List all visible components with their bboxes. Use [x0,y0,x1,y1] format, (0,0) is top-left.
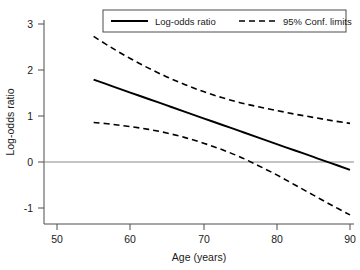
x-tick-label-70: 70 [198,233,210,245]
log-odds-ratio-chart: 3 2 1 0 -1 50 60 70 80 90 Age (years) Lo… [0,0,360,270]
y-tick-label-0: 0 [27,156,33,168]
series-line-log-odds-ratio [94,80,350,170]
legend-label-conf-limits: 95% Conf. limits [283,16,352,27]
x-tick-marks [57,224,350,230]
x-tick-label-80: 80 [271,233,283,245]
chart-legend: Log-odds ratio 95% Conf. limits [103,10,352,32]
y-axis-title: Log-odds ratio [4,88,16,155]
x-tick-label-50: 50 [51,233,63,245]
y-tick-label-1: 1 [27,110,33,122]
x-axis-title: Age (years) [172,251,226,263]
x-tick-label-60: 60 [124,233,136,245]
axes-group [44,20,354,224]
y-tick-label-3: 3 [27,18,33,30]
y-tick-label-2: 2 [27,64,33,76]
y-tick-marks [38,24,44,208]
series-line-lower-confidence-limit [94,122,350,214]
series-line-upper-confidence-limit [94,36,350,123]
series-group [94,36,350,214]
legend-label-log-odds-ratio: Log-odds ratio [155,16,216,27]
chart-figure: 3 2 1 0 -1 50 60 70 80 90 Age (years) Lo… [0,0,360,270]
x-tick-label-90: 90 [344,233,356,245]
y-tick-label-minus1: -1 [24,202,33,214]
